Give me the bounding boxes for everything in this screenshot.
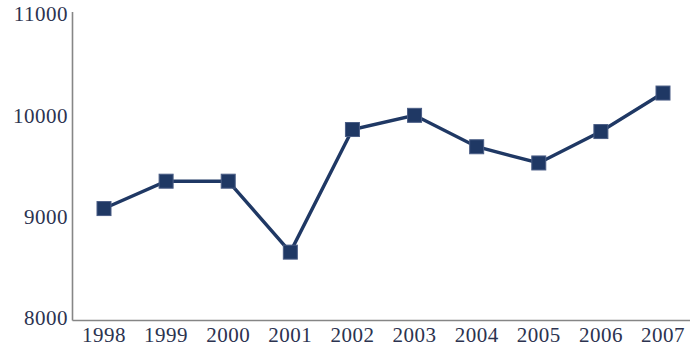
x-tick-label-1999: 1999: [144, 325, 188, 346]
line-chart: 11000 10000 9000 8000 199819992000200120…: [0, 0, 695, 354]
x-tick-label-2001: 2001: [268, 325, 312, 346]
data-point-marker: [221, 174, 235, 188]
data-point-marker: [97, 202, 111, 216]
x-tick-label-2004: 2004: [455, 325, 499, 346]
x-tick-label-2006: 2006: [579, 325, 623, 346]
data-point-marker: [532, 156, 546, 170]
data-point-marker: [345, 123, 359, 137]
data-point-marker: [283, 245, 297, 259]
x-tick-label-1998: 1998: [82, 325, 126, 346]
series-markers: [97, 86, 670, 259]
x-tick-label-2005: 2005: [517, 325, 561, 346]
x-tick-label-2003: 2003: [393, 325, 437, 346]
data-point-marker: [159, 174, 173, 188]
x-tick-label-2007: 2007: [641, 325, 685, 346]
data-point-marker: [594, 125, 608, 139]
x-tick-label-2000: 2000: [206, 325, 250, 346]
data-point-marker: [656, 86, 670, 100]
data-point-marker: [408, 108, 422, 122]
x-tick-label-2002: 2002: [330, 325, 374, 346]
data-point-marker: [470, 140, 484, 154]
plot-area: [0, 0, 695, 354]
series-line: [104, 93, 663, 252]
